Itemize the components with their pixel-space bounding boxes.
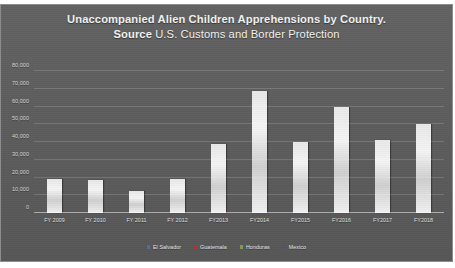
gridline bbox=[34, 159, 444, 160]
y-axis-labels: 010,00020,00030,00040,00050,00060,00070,… bbox=[1, 71, 32, 213]
screenshot-root: Unaccompanied Alien Children Apprehensio… bbox=[0, 0, 455, 268]
y-axis-tick-label: 10,000 bbox=[12, 186, 29, 192]
bar-slot bbox=[34, 71, 75, 213]
gridline bbox=[34, 88, 444, 89]
x-axis-tick-label: FY 2011 bbox=[126, 217, 146, 223]
chart-container: Unaccompanied Alien Children Apprehensio… bbox=[0, 4, 453, 262]
bar bbox=[88, 180, 103, 213]
legend-swatch-icon bbox=[240, 245, 244, 249]
page-title: Unaccompanied Alien Children Apprehensio… bbox=[1, 12, 452, 27]
legend-swatch-icon bbox=[283, 245, 287, 249]
bar-slot bbox=[239, 71, 280, 213]
bar bbox=[211, 144, 226, 213]
legend-label: El Salvador bbox=[153, 244, 181, 250]
gridline bbox=[34, 177, 444, 178]
legend-swatch-icon bbox=[147, 245, 151, 249]
x-axis-tick-label: FY2015 bbox=[291, 217, 310, 223]
bar bbox=[170, 179, 185, 213]
bar bbox=[293, 142, 308, 213]
y-axis-tick-label: 50,000 bbox=[12, 115, 29, 121]
bar-slot bbox=[403, 71, 444, 213]
legend-item: El Salvador bbox=[147, 244, 181, 250]
legend-label: Mexico bbox=[289, 244, 306, 250]
x-axis-tick-label: FY2014 bbox=[250, 217, 269, 223]
bar bbox=[416, 124, 431, 213]
subtitle-source-label: Source bbox=[113, 28, 152, 40]
chart-subtitle: Source U.S. Customs and Border Protectio… bbox=[1, 27, 452, 42]
y-axis-tick-label: 20,000 bbox=[12, 169, 29, 175]
y-axis-tick-label: 70,000 bbox=[12, 80, 29, 86]
bar-slot bbox=[321, 71, 362, 213]
legend-label: Guatemala bbox=[200, 244, 227, 250]
y-axis-tick-label: 80,000 bbox=[12, 62, 29, 68]
x-axis-tick-label: FY2018 bbox=[414, 217, 433, 223]
bar-slot bbox=[116, 71, 157, 213]
bar-slot bbox=[362, 71, 403, 213]
bar-slot bbox=[198, 71, 239, 213]
gridline bbox=[34, 194, 444, 195]
gridline bbox=[34, 123, 444, 124]
axis-baseline bbox=[34, 212, 444, 213]
plot-area bbox=[34, 71, 444, 213]
bar bbox=[47, 179, 62, 213]
legend-label: Honduras bbox=[246, 244, 270, 250]
chart-legend: El SalvadorGuatemalaHondurasMexico bbox=[1, 244, 452, 250]
y-axis-tick-label: 0 bbox=[26, 204, 29, 210]
x-axis-tick-label: FY 2010 bbox=[85, 217, 106, 223]
bar-series bbox=[34, 71, 444, 213]
gridline bbox=[34, 106, 444, 107]
legend-item: Guatemala bbox=[194, 244, 227, 250]
chart-title-block: Unaccompanied Alien Children Apprehensio… bbox=[1, 12, 452, 42]
x-axis-tick-label: FY 2012 bbox=[167, 217, 188, 223]
x-axis-tick-label: FY2016 bbox=[332, 217, 351, 223]
bar-slot bbox=[157, 71, 198, 213]
x-axis-labels: FY 2009FY 2010FY 2011FY 2012FY2013FY2014… bbox=[34, 217, 444, 231]
bar-slot bbox=[75, 71, 116, 213]
x-axis-tick-label: FY 2009 bbox=[44, 217, 65, 223]
bar-slot bbox=[280, 71, 321, 213]
y-axis-tick-label: 30,000 bbox=[12, 151, 29, 157]
y-axis-tick-label: 40,000 bbox=[12, 133, 29, 139]
subtitle-source-value: U.S. Customs and Border Protection bbox=[152, 28, 340, 40]
legend-item: Mexico bbox=[283, 244, 306, 250]
gridline bbox=[34, 141, 444, 142]
y-axis-tick-label: 60,000 bbox=[12, 98, 29, 104]
gridline bbox=[34, 70, 444, 71]
legend-item: Honduras bbox=[240, 244, 270, 250]
x-axis-tick-label: FY2017 bbox=[373, 217, 392, 223]
legend-swatch-icon bbox=[194, 245, 198, 249]
x-axis-tick-label: FY2013 bbox=[209, 217, 228, 223]
